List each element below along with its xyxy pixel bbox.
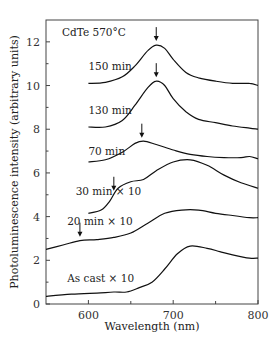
- x-tick-label: 600: [78, 309, 99, 322]
- series-label: As cast × 10: [66, 272, 134, 284]
- y-tick-label: 12: [26, 36, 40, 49]
- peak-arrow-head-icon: [154, 72, 159, 77]
- y-tick-label: 6: [33, 167, 40, 180]
- y-tick-label: 4: [33, 211, 40, 224]
- y-tick-label: 8: [33, 123, 40, 136]
- y-axis-label: Photoluminescence intensity (arbitrary u…: [8, 35, 21, 289]
- chart-title: CdTe 570°C: [62, 26, 126, 38]
- spectrum-curve-5: [46, 246, 258, 297]
- series-label: 20 min × 10: [67, 215, 133, 227]
- y-tick-label: 2: [33, 254, 40, 267]
- x-axis-ticks: 600700800: [78, 300, 269, 322]
- x-tick-label: 800: [248, 309, 269, 322]
- y-tick-label: 10: [26, 80, 40, 93]
- peak-arrow-head-icon: [154, 36, 159, 41]
- plot-frame: [46, 20, 258, 304]
- peak-arrow-head-icon: [77, 232, 82, 237]
- series-labels: 150 min130 min70 min30 min × 1020 min × …: [66, 60, 141, 284]
- y-tick-label: 0: [33, 298, 40, 311]
- series-label: 70 min: [88, 145, 125, 157]
- pl-spectra-chart: 024681012 600700800 150 min130 min70 min…: [0, 0, 278, 348]
- spectra-curves: [46, 45, 258, 296]
- peak-arrow-head-icon: [139, 133, 144, 138]
- series-label: 150 min: [88, 60, 132, 72]
- peak-arrows: [77, 27, 158, 237]
- x-axis-label: Wavelength (nm): [105, 320, 200, 333]
- series-label: 130 min: [88, 104, 132, 116]
- series-label: 30 min × 10: [76, 185, 142, 197]
